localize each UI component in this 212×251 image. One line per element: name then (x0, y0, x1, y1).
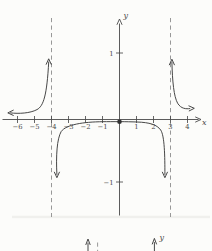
x-tick-label-3: 3 (168, 123, 172, 131)
x-tick-label-neg3: −3 (63, 123, 73, 131)
x-tick-label-1: 1 (134, 123, 138, 131)
x-tick-label-neg2: −2 (80, 123, 90, 131)
x-tick-label-neg4: −4 (46, 123, 56, 131)
function-graph-figure: x y −6 −5 −4 −3 −2 −1 1 2 3 4 1 −1 (0, 0, 212, 251)
y-tick-label-neg1: −1 (103, 179, 113, 187)
curve-left-branch (8, 59, 51, 116)
rational-function-plot: x y −6 −5 −4 −3 −2 −1 1 2 3 4 1 −1 (0, 0, 212, 251)
x-axis-label: x (202, 118, 207, 127)
x-tick-label-4: 4 (185, 123, 189, 131)
curve-right-branch-path (172, 62, 190, 109)
scan-shadow-band (12, 216, 210, 218)
x-tick-label-neg6: −6 (12, 123, 22, 131)
next-figure-preview: y (86, 233, 165, 251)
y-tick-label-1: 1 (109, 50, 113, 58)
y-tick-labels: 1 −1 (103, 50, 113, 187)
y-axis: y (116, 11, 129, 216)
origin-point-dot (117, 120, 122, 125)
curve-right-branch (169, 59, 194, 111)
x-tick-label-neg1: −1 (97, 123, 107, 131)
y-axis-label: y (123, 11, 129, 20)
x-tick-label-neg5: −5 (29, 123, 39, 131)
curve-left-branch-path (11, 62, 49, 113)
preview-y-axis-label: y (159, 233, 165, 242)
x-tick-labels: −6 −5 −4 −3 −2 −1 1 2 3 4 (12, 123, 189, 131)
